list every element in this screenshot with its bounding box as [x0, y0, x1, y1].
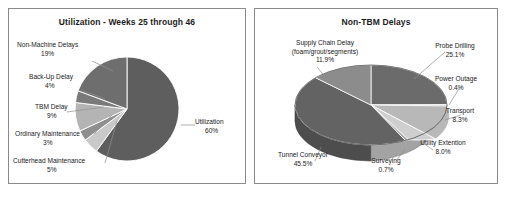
pie-label-transport: Transport 8.3% [433, 107, 487, 124]
pie-label-power-outage: Power Outage 0.4% [423, 75, 489, 92]
figure-two-pie-charts: Utilization - Weeks 25 through 46 [0, 0, 506, 199]
pie-label-probe-drilling: Probe Drilling 25.1% [423, 42, 487, 59]
pie-label-tunnel-conveyor: Tunnel Conveyor 45.5% [265, 151, 341, 168]
pie-label-supply-chain-delay: Supply Chain Delay (foam/grout/segments)… [267, 39, 383, 65]
chart-panel-utilization: Utilization - Weeks 25 through 46 [8, 8, 246, 184]
chart-panel-non-tbm-delays: Non-TBM Delays [254, 8, 498, 184]
pie-label-ordinary-maintenance: Ordinary Maintenance 3% [15, 130, 80, 147]
pie-label-backup-delay: Back-Up Delay 4% [29, 73, 73, 90]
pie-label-non-machine-delays: Non-Machine Delays 19% [17, 41, 78, 58]
pie-label-tbm-delay: TBM Delay 9% [35, 103, 68, 120]
pie-label-utilization: Utilization 60% [195, 118, 224, 135]
pie-label-surveying: Surveying 0.7% [359, 157, 413, 174]
pie-label-cutterhead-maintenance: Cutterhead Maintenance 5% [13, 157, 85, 174]
pie-label-utility-extention: Utility Extention 8.0% [407, 139, 479, 156]
